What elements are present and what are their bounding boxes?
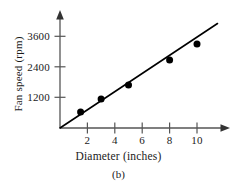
data-point	[125, 82, 132, 89]
x-tick-label-4: 4	[103, 134, 127, 146]
x-tick-label-6: 6	[130, 134, 154, 146]
panel-caption: (b)	[0, 168, 237, 180]
y-tick-label-3600: 3600	[6, 30, 50, 42]
data-point	[98, 96, 105, 103]
x-axis-title: Diameter (inches)	[0, 150, 237, 162]
x-tick-label-8: 8	[158, 134, 182, 146]
x-tick-label-10: 10	[185, 134, 209, 146]
x-axis	[60, 124, 230, 131]
y-tick-label-1200: 1200	[6, 91, 50, 103]
y-axis	[56, 10, 64, 128]
data-point	[166, 57, 173, 64]
data-point	[194, 41, 201, 48]
figure-panel: Fan speed (rpm) 1200 2400 3600 2 4 6 8 1…	[0, 0, 237, 188]
x-tick-label-2: 2	[75, 134, 99, 146]
y-tick-label-2400: 2400	[6, 61, 50, 73]
data-point	[77, 109, 84, 116]
